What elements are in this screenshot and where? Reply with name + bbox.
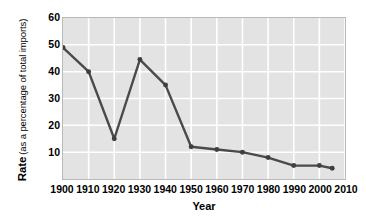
y-tick-label-10: 10 (40, 147, 60, 158)
y-tick-label-20: 20 (40, 120, 60, 131)
y-tick-label-50: 50 (40, 39, 60, 50)
x-axis-tick-labels: 1900191019201930194019501960197019801990… (62, 183, 346, 199)
data-series-line (63, 18, 345, 179)
y-tick-label-30: 30 (40, 93, 60, 104)
y-axis-title: Rate (as a percentage of total imports) (11, 5, 33, 195)
line-chart-figure: Rate (as a percentage of total imports) … (0, 0, 366, 222)
y-tick-label-60: 60 (40, 12, 60, 23)
plot-area (62, 17, 346, 180)
x-tick-label-2010: 2010 (326, 183, 366, 196)
y-tick-label-40: 40 (40, 66, 60, 77)
y-axis-title-plain: (as a percentage of total imports) (17, 19, 28, 155)
x-axis-title: Year (62, 200, 346, 212)
y-axis-title-bold: Rate (16, 157, 28, 182)
